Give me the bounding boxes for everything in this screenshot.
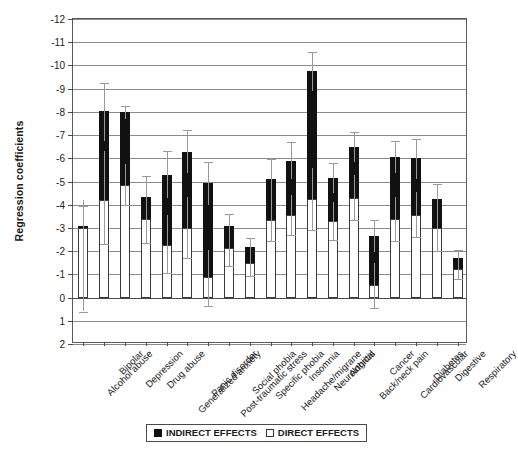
legend-swatch-indirect <box>154 429 162 437</box>
legend-item-direct-effects: DIRECT EFFECTS <box>266 427 359 438</box>
legend-label-direct: DIRECT EFFECTS <box>278 427 359 438</box>
legend-swatch-direct <box>266 429 274 437</box>
chart-legend: INDIRECT EFFECTS DIRECT EFFECTS <box>146 424 367 442</box>
legend-label-indirect: INDIRECT EFFECTS <box>166 427 257 438</box>
legend-item-indirect-effects: INDIRECT EFFECTS <box>154 427 257 438</box>
